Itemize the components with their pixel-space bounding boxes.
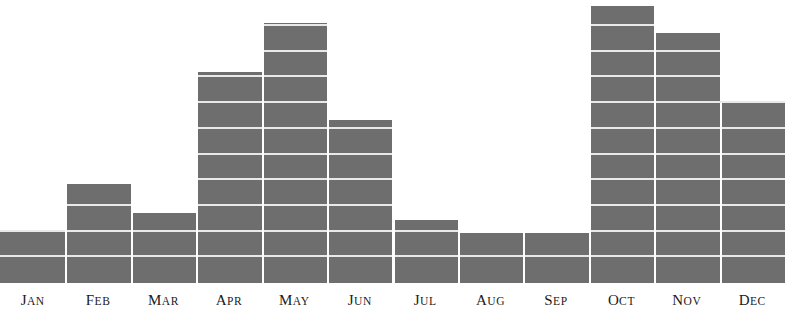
- bar-fill: [654, 33, 719, 283]
- bar-separator: [523, 233, 525, 283]
- bar-separator: [65, 184, 67, 283]
- bar-fill: [720, 103, 785, 283]
- bar-separator: [458, 233, 460, 283]
- bar-fill: [589, 6, 654, 283]
- bar-fill: [393, 220, 458, 283]
- bar-fill: [327, 120, 392, 283]
- bar-separator: [131, 213, 133, 283]
- x-axis-label-sep: SEP: [523, 292, 588, 310]
- bar-fill: [458, 233, 523, 283]
- x-axis-label-jan: JAN: [0, 292, 65, 310]
- bar-fill: [196, 72, 261, 283]
- bar-mar[interactable]: [131, 213, 196, 283]
- x-axis-label-mar: MAR: [131, 292, 196, 310]
- bar-fill: [262, 23, 327, 283]
- bar-separator: [262, 23, 264, 283]
- bar-separator: [720, 103, 722, 283]
- bar-separator: [327, 120, 329, 283]
- x-axis-label-may: MAY: [262, 292, 327, 310]
- bar-oct[interactable]: [589, 6, 654, 283]
- bar-jul[interactable]: [393, 220, 458, 283]
- bar-separator: [196, 72, 198, 283]
- bar-feb[interactable]: [65, 184, 130, 283]
- bar-sep[interactable]: [523, 233, 588, 283]
- bar-fill: [65, 184, 130, 283]
- x-axis-label-dec: DEC: [720, 292, 785, 310]
- x-axis-labels: JANFEBMARAPRMAYJUNJULAUGSEPOCTNOVDEC: [0, 284, 785, 315]
- bar-separator: [654, 33, 656, 283]
- x-axis-label-aug: AUG: [458, 292, 523, 310]
- bar-separator: [393, 220, 395, 283]
- bar-fill: [131, 213, 196, 283]
- bar-dec[interactable]: [720, 103, 785, 283]
- bar-fill: [0, 232, 65, 283]
- plot-area: [0, 0, 785, 284]
- bar-nov[interactable]: [654, 33, 719, 283]
- bar-separator: [589, 6, 591, 283]
- x-axis-label-oct: OCT: [589, 292, 654, 310]
- bar-aug[interactable]: [458, 233, 523, 283]
- bar-apr[interactable]: [196, 72, 261, 283]
- bar-jun[interactable]: [327, 120, 392, 283]
- x-axis-label-jul: JUL: [393, 292, 458, 310]
- bar-fill: [523, 233, 588, 283]
- bar-jan[interactable]: [0, 232, 65, 283]
- x-axis-label-feb: FEB: [65, 292, 130, 310]
- x-axis-label-jun: JUN: [327, 292, 392, 310]
- x-axis-label-nov: NOV: [654, 292, 719, 310]
- bar-may[interactable]: [262, 23, 327, 283]
- bar-chart: JANFEBMARAPRMAYJUNJULAUGSEPOCTNOVDEC: [0, 0, 785, 315]
- x-axis-label-apr: APR: [196, 292, 261, 310]
